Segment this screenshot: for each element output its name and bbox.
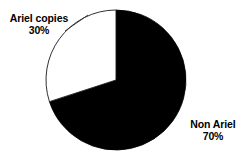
slice-label-ariel-copies: Ariel copies 30% xyxy=(4,12,74,36)
slice-label-non-ariel-name: Non Ariel xyxy=(183,118,243,130)
pie-chart-figure: Ariel copies 30% Non Ariel 70% xyxy=(0,0,245,161)
slice-label-non-ariel: Non Ariel 70% xyxy=(183,118,243,142)
slice-label-ariel-copies-name: Ariel copies xyxy=(4,12,74,24)
slice-label-non-ariel-value: 70% xyxy=(183,130,243,142)
slice-label-ariel-copies-value: 30% xyxy=(4,24,74,36)
